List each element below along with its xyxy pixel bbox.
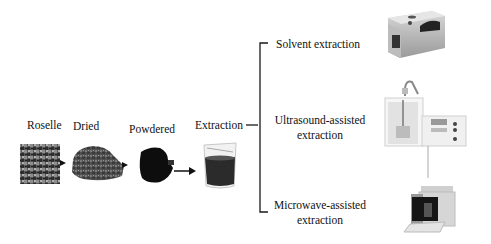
ultrasonic-processor-image	[385, 82, 466, 178]
arrow-powdered-to-extraction	[174, 167, 196, 175]
water-bath-image	[388, 11, 445, 58]
microwave-extractor-image	[404, 186, 455, 232]
powdered-image	[140, 148, 174, 183]
diagram-graphics	[0, 0, 491, 244]
dried-image	[72, 146, 124, 180]
bracket	[246, 43, 268, 212]
roselle-image	[20, 144, 60, 184]
arrow-roselle-to-dried	[60, 160, 66, 166]
arrow-dried-to-powdered	[122, 162, 128, 168]
extraction-beaker-image	[204, 143, 236, 188]
